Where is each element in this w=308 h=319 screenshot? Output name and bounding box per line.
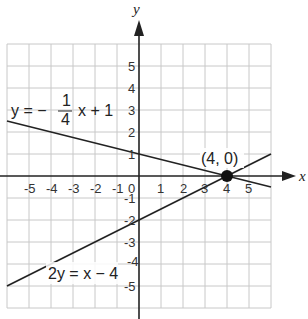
intersection-label: (4, 0) (201, 150, 238, 167)
x-tick: -2 (90, 181, 102, 196)
y-tick: 5 (128, 59, 135, 74)
y-tick: -3 (124, 235, 136, 250)
x-tick: 5 (245, 181, 252, 196)
eq1-lhs: y = − (11, 102, 47, 119)
y-tick: -1 (124, 191, 136, 206)
coordinate-plane: x y -5 -4 -3 -2 -1 0 1 2 3 4 5 5 4 3 2 1… (0, 0, 308, 319)
y-axis-label: y (131, 1, 140, 17)
equation-1-label: y = − 1 4 x + 1 (8, 92, 116, 130)
x-tick: 3 (201, 181, 208, 196)
y-tick: -4 (127, 254, 139, 269)
y-axis-arrow-icon (134, 20, 144, 36)
y-tick: 1 (128, 147, 135, 162)
y-tick: -2 (124, 213, 136, 228)
eq1-denominator: 4 (61, 111, 70, 128)
eq1-rhs: x + 1 (78, 102, 113, 119)
x-tick: -3 (68, 181, 80, 196)
eq1-numerator: 1 (62, 92, 71, 109)
equation-2-label: 2y = x − 4 (48, 265, 118, 282)
x-axis-arrow-icon (282, 171, 296, 181)
y-tick: 3 (128, 103, 135, 118)
x-axis-label: x (298, 168, 306, 184)
y-tick: -5 (124, 279, 136, 294)
x-tick: 1 (157, 181, 164, 196)
x-tick: 2 (180, 181, 187, 196)
x-tick: -4 (46, 181, 58, 196)
y-tick: 4 (128, 81, 135, 96)
y-tick: 2 (128, 125, 135, 140)
x-tick: -5 (24, 181, 36, 196)
x-tick: 4 (223, 181, 230, 196)
x-tick: -1 (112, 181, 124, 196)
